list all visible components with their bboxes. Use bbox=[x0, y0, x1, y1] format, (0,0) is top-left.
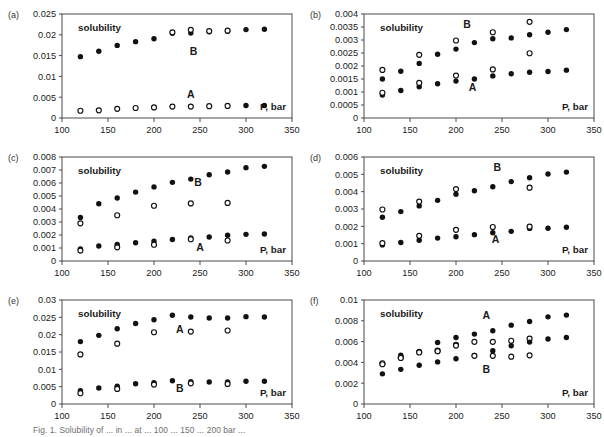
data-point bbox=[509, 338, 514, 343]
data-point bbox=[472, 188, 477, 193]
data-point bbox=[435, 52, 440, 57]
y-tick-label: 0.007 bbox=[33, 165, 56, 175]
data-point bbox=[262, 379, 267, 384]
y-tick-label: 0.006 bbox=[335, 337, 358, 347]
figure-caption: Fig. 1. Solubility of ... in ... at ... … bbox=[0, 424, 604, 437]
y-tick-label: 0.02 bbox=[38, 30, 56, 40]
x-tick-label: 100 bbox=[54, 411, 69, 421]
panel-e: (e)00.0050.010.0150.020.0250.03100150200… bbox=[0, 286, 302, 429]
data-point bbox=[207, 104, 212, 109]
x-tick-label: 250 bbox=[494, 268, 509, 278]
data-point bbox=[527, 32, 532, 37]
series-A-filled bbox=[243, 103, 267, 108]
y-axis-title: solubility bbox=[380, 22, 424, 33]
data-point bbox=[78, 352, 83, 357]
y-tick-label: 0.005 bbox=[335, 170, 358, 180]
x-tick-label: 150 bbox=[402, 268, 417, 278]
y-tick-label: 0.002 bbox=[335, 222, 358, 232]
data-point bbox=[527, 224, 532, 229]
y-tick-label: 0.006 bbox=[335, 152, 358, 162]
data-point bbox=[472, 40, 477, 45]
data-point bbox=[170, 30, 175, 35]
y-tick-label: 0.01 bbox=[38, 72, 56, 82]
data-point bbox=[133, 189, 138, 194]
data-point bbox=[417, 363, 422, 368]
data-point bbox=[207, 234, 212, 239]
y-tick-label: 0.001 bbox=[335, 87, 358, 97]
data-point bbox=[207, 379, 212, 384]
data-point bbox=[152, 382, 157, 387]
x-tick-label: 350 bbox=[586, 411, 601, 421]
panel-d: (d)00.0010.0020.0030.0040.0050.006100150… bbox=[302, 143, 604, 286]
data-point bbox=[564, 312, 569, 317]
y-axis-title: solubility bbox=[78, 22, 122, 33]
series-A-filled bbox=[78, 231, 267, 251]
y-tick-label: 0.0015 bbox=[330, 74, 358, 84]
data-point bbox=[96, 243, 101, 248]
data-point bbox=[170, 104, 175, 109]
data-point bbox=[417, 199, 422, 204]
data-point bbox=[509, 229, 514, 234]
x-tick-label: 200 bbox=[448, 125, 463, 135]
data-point bbox=[417, 233, 422, 238]
series-annotation-a: A bbox=[176, 323, 184, 335]
data-point bbox=[207, 29, 212, 34]
data-point bbox=[133, 321, 138, 326]
data-point bbox=[509, 179, 514, 184]
x-axis-title: P, bar bbox=[562, 101, 588, 112]
data-point bbox=[262, 164, 267, 169]
data-point bbox=[380, 362, 385, 367]
data-point bbox=[509, 354, 514, 359]
y-tick-label: 0 bbox=[51, 399, 56, 409]
y-tick-label: 0.01 bbox=[38, 365, 56, 375]
data-point bbox=[398, 367, 403, 372]
data-point bbox=[133, 106, 138, 111]
y-tick-label: 0.005 bbox=[33, 93, 56, 103]
y-tick-label: 0.008 bbox=[33, 152, 56, 162]
data-point bbox=[527, 353, 532, 358]
data-point bbox=[188, 329, 193, 334]
data-point bbox=[170, 313, 175, 318]
data-point bbox=[490, 184, 495, 189]
data-point bbox=[417, 80, 422, 85]
x-tick-label: 300 bbox=[238, 411, 253, 421]
data-point bbox=[262, 231, 267, 236]
y-tick-label: 0.01 bbox=[340, 295, 358, 305]
data-point bbox=[435, 340, 440, 345]
panel-a: (a)00.0050.010.0150.020.0251001502002503… bbox=[0, 0, 302, 143]
data-point bbox=[243, 232, 248, 237]
data-point bbox=[170, 237, 175, 242]
data-point bbox=[78, 339, 83, 344]
x-axis-title: P, bar bbox=[260, 244, 286, 255]
data-point bbox=[78, 248, 83, 253]
y-tick-label: 0.0025 bbox=[330, 48, 358, 58]
data-point bbox=[509, 35, 514, 40]
data-point bbox=[454, 343, 459, 348]
data-point bbox=[509, 343, 514, 348]
data-point bbox=[527, 51, 532, 56]
data-point bbox=[133, 39, 138, 44]
data-point bbox=[454, 227, 459, 232]
y-tick-label: 0.004 bbox=[335, 9, 358, 19]
series-B-filled bbox=[380, 27, 569, 82]
x-tick-label: 100 bbox=[356, 268, 371, 278]
x-tick-label: 100 bbox=[356, 411, 371, 421]
data-point bbox=[398, 88, 403, 93]
series-annotation-b: B bbox=[483, 363, 491, 375]
data-point bbox=[170, 378, 175, 383]
data-point bbox=[243, 165, 248, 170]
data-point bbox=[435, 235, 440, 240]
data-point bbox=[152, 242, 157, 247]
data-point bbox=[115, 43, 120, 48]
y-tick-label: 0.006 bbox=[33, 178, 56, 188]
data-point bbox=[188, 104, 193, 109]
data-point bbox=[398, 240, 403, 245]
series-annotation-b: B bbox=[494, 161, 502, 173]
figure-caption-text: Fig. 1. Solubility of ... in ... at ... … bbox=[0, 424, 604, 437]
data-point bbox=[564, 67, 569, 72]
data-point bbox=[509, 71, 514, 76]
data-point bbox=[151, 317, 156, 322]
data-point bbox=[545, 69, 550, 74]
series-annotation-a: A bbox=[196, 241, 204, 253]
data-point bbox=[454, 73, 459, 78]
